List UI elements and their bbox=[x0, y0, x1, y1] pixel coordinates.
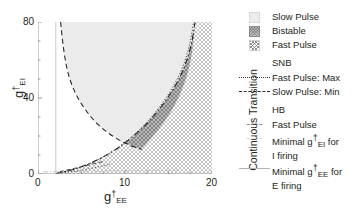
legend-label-minimal-gei: Minimal g†EI forI firing bbox=[272, 132, 339, 161]
y-tick-label-0: 0 bbox=[8, 169, 34, 179]
legend: Slow Pulse Bistable Fast Pulse SNB Fast … bbox=[238, 10, 361, 192]
legend-label-fast-pulse-max: Fast Pulse: Max bbox=[272, 71, 340, 83]
legend-item-slow-pulse-min[interactable]: Slow Pulse: Min bbox=[238, 85, 361, 98]
x-axis-title: g†EE bbox=[104, 189, 127, 205]
legend-minimal-gei-tail: for bbox=[325, 136, 339, 147]
dashed-line-key bbox=[239, 91, 270, 92]
legend-item-bistable[interactable]: Bistable bbox=[238, 24, 361, 37]
legend-label-fast-pulse: Fast Pulse bbox=[272, 38, 317, 50]
y-axis-title-dagger: † bbox=[11, 86, 21, 91]
slow-pulse-swatch bbox=[249, 12, 260, 23]
dotted-line-key bbox=[239, 77, 270, 78]
y-tick-label-80: 80 bbox=[8, 17, 34, 27]
legend-label-hb-fast-pulse: Fast Pulse bbox=[272, 118, 317, 130]
solid-gray-line-key bbox=[239, 168, 270, 169]
legend-minimal-gee-part2: E firing bbox=[272, 180, 302, 191]
y-axis-title-base: g bbox=[11, 91, 26, 98]
legend-item-fast-pulse-patch[interactable]: Fast Pulse bbox=[238, 38, 361, 51]
x-tick-label-10: 10 bbox=[119, 178, 130, 188]
y-axis-title-sub: EI bbox=[18, 78, 27, 86]
legend-item-minimal-gee[interactable]: Minimal g†EE forE firing bbox=[238, 162, 361, 191]
legend-item-slow-pulse[interactable]: Slow Pulse bbox=[238, 10, 361, 23]
legend-group-heading-hb: HB bbox=[238, 104, 361, 117]
x-tick-label-20: 20 bbox=[206, 178, 217, 188]
x-tick-label-0: 0 bbox=[35, 178, 41, 188]
legend-heading-hb: HB bbox=[272, 104, 285, 115]
legend-item-hb-fast-pulse[interactable]: Fast Pulse bbox=[238, 118, 361, 131]
fast-pulse-swatch bbox=[249, 40, 260, 51]
bistable-swatch bbox=[249, 26, 260, 37]
legend-label-bistable: Bistable bbox=[272, 24, 306, 36]
legend-label-slow-pulse: Slow Pulse bbox=[272, 10, 319, 22]
plot-area: Continuous Transition bbox=[38, 22, 212, 174]
legend-minimal-gei-part2: I firing bbox=[272, 150, 298, 161]
legend-label-minimal-gee: Minimal g†EE forE firing bbox=[272, 162, 342, 191]
x-axis-title-sub: EE bbox=[116, 196, 127, 205]
dashdot-gray-line-key bbox=[239, 138, 270, 139]
legend-heading-snb: SNB bbox=[272, 57, 292, 68]
legend-minimal-gee-part1: Minimal g bbox=[272, 166, 313, 177]
plot-canvas bbox=[38, 22, 212, 174]
dashdot-line-key bbox=[239, 124, 270, 125]
legend-label-slow-pulse-min: Slow Pulse: Min bbox=[272, 85, 340, 97]
figure-root: Continuous Transition 80 40 0 0 10 20 g†… bbox=[0, 0, 361, 209]
legend-group-heading-snb: SNB bbox=[238, 57, 361, 70]
legend-minimal-gee-sub: EE bbox=[318, 170, 329, 179]
legend-minimal-gei-part1: Minimal g bbox=[272, 136, 313, 147]
y-axis-title: g†EI bbox=[0, 78, 39, 98]
legend-item-fast-pulse-max[interactable]: Fast Pulse: Max bbox=[238, 71, 361, 84]
legend-item-minimal-gei[interactable]: Minimal g†EI forI firing bbox=[238, 132, 361, 161]
legend-minimal-gee-tail: for bbox=[328, 166, 342, 177]
